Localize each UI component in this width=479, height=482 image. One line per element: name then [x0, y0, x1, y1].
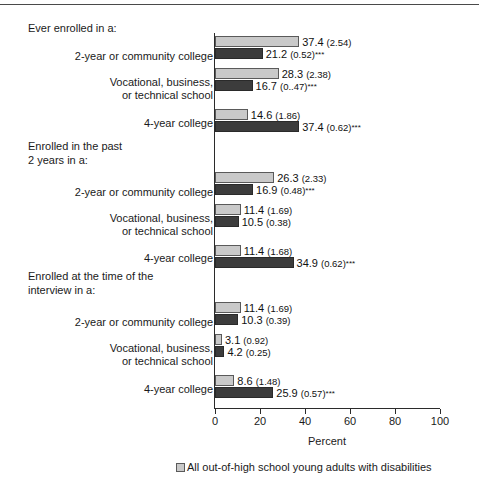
bar-value-light-8: 8.6 (1.48)	[237, 376, 280, 387]
x-tick-label-40: 40	[285, 415, 325, 427]
bar-value-dark-6: 10.3 (0.39)	[241, 315, 290, 326]
category-label-6: 2-year or community college	[75, 316, 213, 329]
bar-dark-6	[215, 314, 238, 325]
x-tick-40	[305, 409, 306, 414]
x-tick-label-80: 80	[375, 415, 415, 427]
category-label-7: Vocational, business, or technical schoo…	[110, 342, 213, 368]
x-tick-60	[350, 409, 351, 414]
category-label-4: Vocational, business, or technical schoo…	[110, 212, 213, 238]
bar-light-6	[215, 302, 241, 313]
x-axis-title: Percent	[214, 435, 440, 447]
bar-value-light-0: 37.4 (2.54)	[302, 37, 351, 48]
top-divider	[0, 4, 479, 5]
bar-light-7	[215, 334, 222, 345]
bar-value-dark-1: 16.7 (0..47)***	[256, 81, 317, 93]
x-tick-label-60: 60	[330, 415, 370, 427]
bar-value-dark-7: 4.2 (0.25)	[227, 347, 270, 358]
bar-value-light-6: 11.4 (1.69)	[244, 303, 292, 314]
bar-dark-2	[215, 121, 299, 132]
x-tick-label-20: 20	[240, 415, 280, 427]
category-label-1: Vocational, business, or technical schoo…	[110, 76, 213, 102]
x-tick-label-0: 0	[195, 415, 235, 427]
bar-value-dark-0: 21.2 (0.52)***	[266, 49, 325, 61]
bar-value-dark-3: 16.9 (0.48)***	[256, 185, 315, 197]
legend-label-0: All out-of-high school young adults with…	[187, 461, 432, 474]
bar-value-light-4: 11.4 (1.69)	[244, 205, 292, 216]
bar-light-0	[215, 36, 299, 47]
bar-dark-7	[215, 346, 224, 357]
bar-light-8	[215, 375, 234, 386]
bar-light-2	[215, 109, 248, 120]
legend-entry-all-young-adults: All out-of-high school young adults with…	[176, 461, 432, 474]
category-label-8: 4-year college	[144, 383, 213, 396]
bar-value-light-1: 28.3 (2.38)	[282, 69, 331, 80]
bar-dark-5	[215, 257, 294, 268]
category-label-2: 4-year college	[144, 117, 213, 130]
x-tick-100	[440, 409, 441, 414]
x-tick-0	[215, 409, 216, 414]
bar-value-light-3: 26.3 (2.33)	[277, 173, 326, 184]
x-tick-label-100: 100	[420, 415, 460, 427]
bar-value-dark-5: 34.9 (0.62)***	[297, 258, 356, 270]
x-tick-20	[260, 409, 261, 414]
bar-dark-8	[215, 387, 273, 398]
group-heading-at-interview: Enrolled at the time of the interview in…	[28, 270, 153, 297]
bar-value-light-7: 3.1 (0.92)	[225, 335, 268, 346]
category-label-3: 2-year or community college	[75, 186, 213, 199]
bar-dark-3	[215, 184, 253, 195]
bar-value-dark-8: 25.9 (0.57)***	[276, 388, 335, 400]
bar-light-5	[215, 245, 241, 256]
bar-light-4	[215, 204, 241, 215]
chart-figure: Ever enrolled in a: Enrolled in the past…	[0, 0, 479, 482]
group-heading-ever-enrolled: Ever enrolled in a:	[28, 22, 117, 36]
bar-value-dark-4: 10.5 (0.38)	[242, 217, 291, 228]
bar-light-3	[215, 172, 274, 183]
bar-dark-4	[215, 216, 239, 227]
legend-swatch-light	[176, 463, 185, 472]
x-tick-80	[395, 409, 396, 414]
category-label-0: 2-year or community college	[75, 50, 213, 63]
bar-dark-1	[215, 80, 253, 91]
bar-dark-0	[215, 48, 263, 59]
bar-value-light-5: 11.4 (1.68)	[244, 246, 292, 257]
category-label-5: 4-year college	[144, 252, 213, 265]
bar-light-1	[215, 68, 279, 79]
bar-value-dark-2: 37.4 (0.62)***	[302, 122, 361, 134]
group-heading-past-2-years: Enrolled in the past 2 years in a:	[28, 140, 122, 167]
bar-value-light-2: 14.6 (1.86)	[251, 110, 300, 121]
x-axis-line	[214, 408, 440, 409]
